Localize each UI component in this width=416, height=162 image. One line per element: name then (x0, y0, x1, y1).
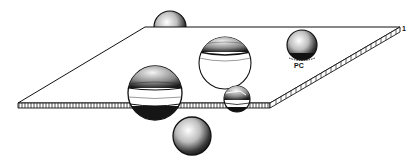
sphere-transmembrane-small (224, 86, 250, 113)
sphere-transmembrane-large (128, 66, 182, 120)
sphere-below (173, 117, 211, 155)
label-pc: PC (294, 62, 304, 69)
label-corner-number: 1 (402, 25, 406, 32)
sphere-partially-inserted (199, 37, 251, 89)
sphere-pc (287, 30, 317, 61)
membrane-diagram (0, 0, 416, 162)
